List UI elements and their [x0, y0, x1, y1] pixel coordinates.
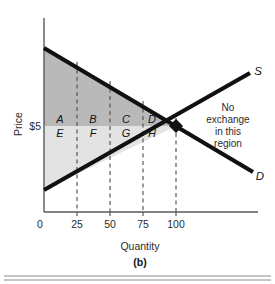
demand-curve-label: D — [256, 170, 264, 182]
region-letter-h: H — [148, 127, 156, 139]
chart-canvas: 0 25 50 75 100 $5 Price Quantity A B C D… — [0, 0, 275, 284]
x-axis-title: Quantity — [120, 240, 160, 252]
no-exchange-note-line-3: in this — [215, 126, 241, 137]
x-tick-label-0: 0 — [37, 218, 43, 230]
region-letter-d: D — [148, 113, 156, 125]
no-exchange-note-line-2: exchange — [206, 114, 250, 125]
no-exchange-note-line-1: No — [222, 102, 235, 113]
x-tick-label-50: 50 — [104, 218, 116, 230]
panel-label: (b) — [133, 256, 146, 268]
x-tick-label-25: 25 — [71, 218, 83, 230]
y-tick-label-price: $5 — [29, 120, 41, 132]
region-letter-c: C — [122, 113, 130, 125]
region-letter-g: G — [122, 127, 131, 139]
supply-curve-label: S — [254, 65, 262, 77]
y-axis-title: Price — [12, 112, 24, 136]
figure-panel-b: 0 25 50 75 100 $5 Price Quantity A B C D… — [0, 0, 275, 284]
x-tick-label-75: 75 — [137, 218, 149, 230]
supply-demand-chart: 0 25 50 75 100 $5 Price Quantity A B C D… — [0, 0, 275, 284]
x-tick-label-100: 100 — [167, 218, 185, 230]
region-letter-e: E — [56, 127, 64, 139]
no-exchange-note-line-4: region — [214, 138, 242, 149]
region-letter-a: A — [55, 113, 63, 125]
region-letter-b: B — [89, 113, 96, 125]
